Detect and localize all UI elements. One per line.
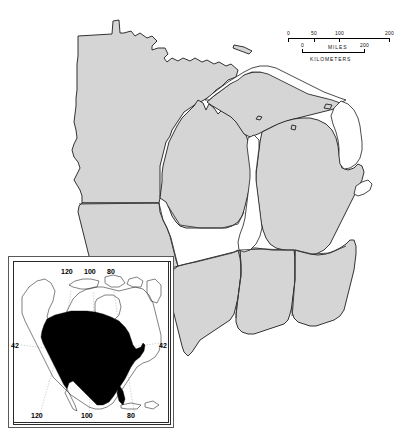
- inset-lon-label-top-120: 120: [61, 268, 73, 275]
- kilometers-tick-200: [364, 49, 365, 53]
- inset-lat-label-right-42: 42: [159, 342, 167, 349]
- inset-lon-label-top-80: 80: [107, 268, 115, 275]
- isle-royale: [233, 45, 252, 54]
- kilometers-label-200: 200: [360, 43, 369, 48]
- beaver-island: [291, 125, 296, 130]
- inset-lat-label-left-42: 42: [11, 342, 19, 349]
- miles-tick-100: [339, 38, 340, 42]
- inset-lon-label-bottom-100: 100: [81, 412, 93, 419]
- inset-lon-label-top-100: 100: [84, 268, 96, 275]
- baja-california: [65, 389, 77, 411]
- inset-lon-label-bottom-80: 80: [127, 412, 135, 419]
- miles-tick-0: [288, 38, 289, 42]
- manitoulin-islands: [324, 104, 332, 109]
- miles-label-50: 50: [311, 31, 317, 36]
- inset-map-graphic: [9, 257, 175, 429]
- miles-unit-label: MILES: [328, 45, 348, 50]
- miles-label-100: 100: [335, 31, 344, 36]
- species-range-shading: [41, 311, 145, 405]
- scale-bar: 0 50 100 200 MILES 0 200 KILOMETERS: [288, 26, 396, 68]
- greenland-edge: [147, 279, 161, 303]
- canada-arctic-islands: [69, 275, 143, 289]
- inset-lon-label-bottom-120: 120: [31, 412, 43, 419]
- state-indiana: [236, 248, 295, 334]
- miles-label-0: 0: [287, 31, 290, 36]
- kilometers-bar-line: [302, 52, 364, 53]
- caribbean-islands: [121, 401, 159, 409]
- map-figure: 0 50 100 200 MILES 0 200 KILOMETERS: [0, 0, 406, 435]
- kilometers-label-0: 0: [301, 43, 304, 48]
- miles-tick-50: [314, 38, 315, 42]
- kilometers-unit-label: KILOMETERS: [310, 57, 351, 62]
- miles-label-200: 200: [385, 31, 394, 36]
- north-america-locator-inset: 120 100 80 120 100 80 42 42: [8, 256, 174, 428]
- species-range-florida: [117, 385, 125, 405]
- kilometers-tick-0: [302, 49, 303, 53]
- miles-tick-200: [389, 38, 390, 42]
